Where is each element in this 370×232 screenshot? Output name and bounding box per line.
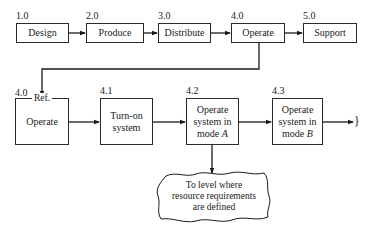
step-number: 4.1 bbox=[100, 86, 113, 96]
process-label: Distribute bbox=[165, 27, 205, 39]
step-number: 5.0 bbox=[303, 11, 316, 21]
mode-variable: A bbox=[222, 128, 228, 139]
mode-prefix: mode bbox=[197, 128, 222, 139]
process-label-line: mode A bbox=[197, 128, 228, 140]
cloud-line: To level where bbox=[160, 180, 268, 191]
mode-prefix: mode bbox=[282, 128, 307, 139]
reference-label: Ref. bbox=[32, 93, 52, 103]
process-label: Design bbox=[28, 27, 56, 39]
process-label-line: system bbox=[113, 122, 141, 134]
process-box-design[interactable]: Design bbox=[16, 23, 69, 43]
process-label-line: Operate bbox=[282, 104, 314, 116]
step-number: 4.0 bbox=[231, 11, 244, 21]
process-box-operate-ref[interactable]: Operate bbox=[15, 98, 69, 145]
cloud-line: are defined bbox=[160, 202, 268, 213]
process-box-produce[interactable]: Produce bbox=[86, 23, 144, 43]
process-label-line: Turn-on bbox=[110, 110, 142, 122]
process-label: Operate bbox=[242, 27, 274, 39]
step-number: 4.0 bbox=[15, 88, 28, 98]
step-number: 1.0 bbox=[16, 11, 29, 21]
process-label-line: Operate bbox=[197, 104, 229, 116]
continuation-brace-icon: } bbox=[354, 114, 360, 128]
process-box-operate-mode-a[interactable]: Operate system in mode A bbox=[186, 98, 239, 145]
process-box-operate[interactable]: Operate bbox=[231, 23, 285, 43]
cloud-note: To level where resource requirements are… bbox=[160, 180, 268, 213]
process-box-turn-on-system[interactable]: Turn-on system bbox=[100, 98, 153, 145]
mode-variable: B bbox=[307, 128, 313, 139]
process-label: Operate bbox=[26, 116, 58, 128]
process-box-distribute[interactable]: Distribute bbox=[158, 23, 211, 43]
process-label-line: system in bbox=[193, 116, 231, 128]
process-label-line: system in bbox=[278, 116, 316, 128]
cloud-line: resource requirements bbox=[160, 191, 268, 202]
process-label: Produce bbox=[99, 27, 132, 39]
process-box-support[interactable]: Support bbox=[303, 23, 357, 43]
step-number: 4.3 bbox=[272, 86, 285, 96]
step-number: 4.2 bbox=[186, 86, 199, 96]
step-number: 2.0 bbox=[86, 11, 99, 21]
process-label: Support bbox=[314, 27, 346, 39]
process-label-line: mode B bbox=[282, 128, 313, 140]
process-box-operate-mode-b[interactable]: Operate system in mode B bbox=[272, 98, 323, 145]
step-number: 3.0 bbox=[158, 11, 171, 21]
